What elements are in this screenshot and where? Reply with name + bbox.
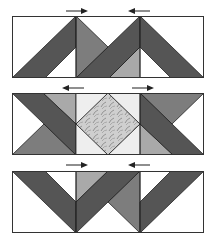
press-arrow-right-icon: [66, 162, 88, 168]
quilt-row-2: [12, 93, 204, 155]
press-arrow-left-icon: [128, 162, 150, 168]
block-2-2-center: [76, 93, 140, 155]
quilt-row-1: [12, 16, 204, 78]
press-arrow-left-icon: [128, 8, 150, 14]
press-arrow-right-icon: [132, 85, 154, 91]
press-arrow-right-icon: [66, 8, 88, 14]
press-arrow-left-icon: [62, 85, 84, 91]
quilt-row-3: [12, 171, 204, 233]
